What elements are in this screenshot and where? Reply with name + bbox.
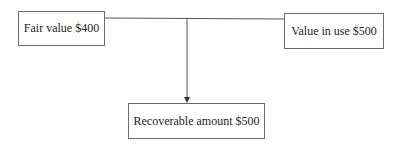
value-in-use-label: Value in use $500 — [291, 24, 377, 39]
value-in-use-box: Value in use $500 — [284, 13, 384, 49]
fair-value-box: Fair value $400 — [18, 11, 105, 46]
horizontal-connector — [104, 18, 284, 19]
diagram-canvas: Fair value $400 Value in use $500 Recove… — [0, 0, 396, 147]
fair-value-label: Fair value $400 — [24, 21, 99, 36]
recoverable-amount-label: Recoverable amount $500 — [134, 114, 260, 129]
recoverable-amount-box: Recoverable amount $500 — [128, 103, 265, 139]
